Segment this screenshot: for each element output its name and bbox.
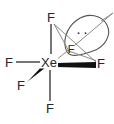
wedge-bond-group bbox=[27, 62, 96, 82]
fluorine-lower-left: F bbox=[16, 79, 26, 92]
bond-wedge-xe-to-fluorine-right bbox=[56, 62, 96, 68]
fluorine-bottom: F bbox=[45, 102, 55, 115]
central-atom-xe: Xe bbox=[40, 56, 58, 69]
lone-pair-dots: ·· bbox=[75, 25, 91, 38]
fluorine-right: F bbox=[96, 57, 106, 70]
fluorine-back: F bbox=[67, 43, 76, 56]
fluorine-top: F bbox=[46, 11, 56, 24]
lewis-structure-diagram: Xe F F F F F F ·· bbox=[0, 0, 114, 124]
fluorine-left: F bbox=[4, 56, 14, 69]
